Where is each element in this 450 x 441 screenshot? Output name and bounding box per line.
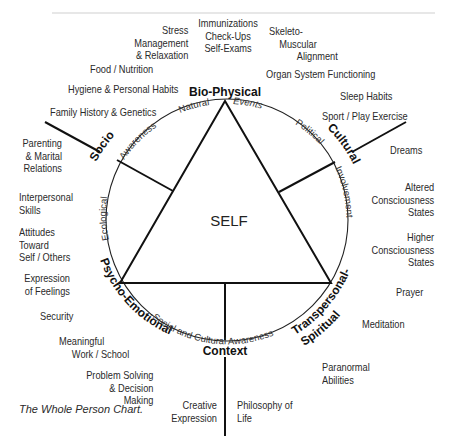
label-security: Security: [40, 310, 73, 323]
label-paranormal: Paranormal Abilities: [322, 361, 370, 386]
label-organ: Organ System Functioning: [266, 68, 375, 81]
label-higher: Higher Consciousness States: [371, 231, 434, 269]
label-meditation: Meditation: [362, 318, 405, 331]
arc-label-awareness: Awareness: [117, 119, 159, 161]
arc-label-ecological: Ecological: [97, 196, 111, 242]
label-food: Food / Nutrition: [90, 63, 153, 76]
label-immunizations: Immunizations Check-Ups Self-Exams: [195, 17, 262, 55]
self-label: SELF: [210, 212, 248, 229]
cultural-label: Cultural: [325, 120, 363, 166]
label-interpersonal: Interpersonal Skills: [19, 191, 73, 216]
cultural-inner-spoke: [279, 162, 335, 192]
socio-label: Socio: [86, 128, 117, 163]
label-family: Family History & Genetics: [50, 106, 156, 119]
label-parenting: Parenting & Marital Relations: [22, 137, 62, 175]
label-dreams: Dreams: [390, 144, 422, 157]
arc-label-social-cultural-awareness: Social and Cultural Awareness: [151, 311, 275, 347]
label-hygiene: Hygiene & Personal Habits: [68, 83, 178, 96]
label-altered: Altered Consciousness States: [371, 181, 434, 219]
label-prayer: Prayer: [396, 286, 423, 299]
label-meaningful: Meaningful Work / School: [59, 335, 129, 360]
label-philosophy: Philosophy of Life: [237, 399, 292, 424]
label-sport: Sport / Play Exercise: [322, 110, 408, 123]
chart-caption: The Whole Person Chart.: [19, 403, 143, 415]
whole-person-chart: SELF Bio-Physical Context Socio Cultural…: [0, 0, 450, 441]
label-skeleto: Skeleto- Muscular Alignment: [269, 25, 338, 63]
label-attitudes: Attitudes Toward Self / Others: [19, 226, 70, 264]
chart-graphic: SELF Bio-Physical Context Socio Cultural…: [0, 0, 450, 441]
label-problem: Problem Solving & Decision Making: [86, 369, 153, 407]
label-expression: Expression of Feelings: [24, 272, 70, 297]
label-stress: Stress Management & Relaxation: [134, 24, 188, 62]
label-sleep: Sleep Habits: [340, 90, 392, 103]
label-creative: Creative Expression: [171, 399, 217, 424]
socio-inner-spoke: [117, 160, 173, 191]
